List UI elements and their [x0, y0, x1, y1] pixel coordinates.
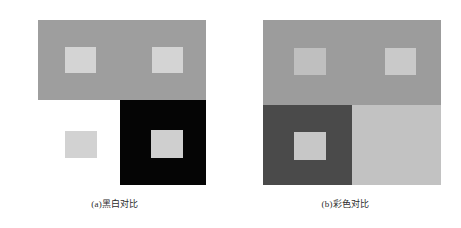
panel-b-square-top-left	[294, 48, 326, 75]
panel-b-light-block	[352, 105, 441, 185]
panel-a-square-in-black	[151, 130, 183, 158]
panel-b-caption: (b)彩色对比	[230, 198, 461, 210]
panel-b-stage	[263, 20, 441, 185]
panel-b-square-in-dark	[294, 132, 326, 160]
figure-panel-b: (b)彩色对比	[230, 0, 461, 228]
panel-a-square-top-right	[152, 47, 183, 73]
figure-panel-a: (a)黑白对比	[0, 0, 230, 228]
panel-b-square-top-right	[385, 48, 416, 75]
figure-root: (a)黑白对比 (b)彩色对比	[0, 0, 461, 228]
panel-a-square-on-white	[65, 131, 97, 158]
panel-a-caption: (a)黑白对比	[0, 198, 230, 210]
panel-a-stage	[38, 20, 206, 185]
panel-a-square-top-left	[65, 47, 96, 73]
